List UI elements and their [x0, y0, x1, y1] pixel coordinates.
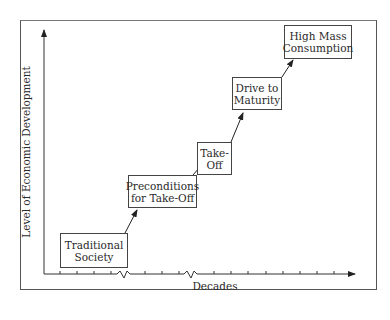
stage-traditional-society: Traditional Society	[60, 233, 128, 268]
stage-high-mass-consumption: High Mass Consumption	[284, 25, 352, 59]
stage-take-off: Take- Off	[197, 142, 232, 175]
stage-preconditions-for-take-off: Preconditions for Take-Off	[128, 175, 197, 208]
x-axis-label: Decades	[192, 280, 237, 292]
y-axis-label: Level of Economic Development	[20, 66, 32, 237]
x-axis	[44, 271, 355, 278]
stage-drive-to-maturity: Drive to Maturity	[232, 77, 282, 110]
